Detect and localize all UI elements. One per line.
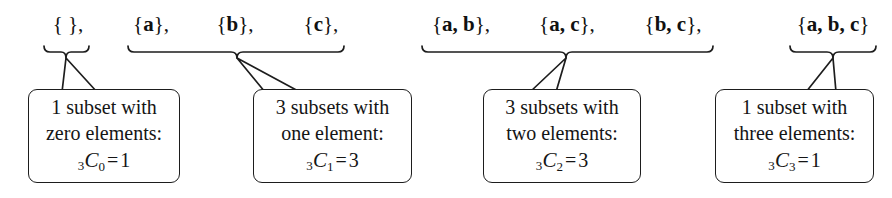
pointer-tail-one-element <box>237 58 300 92</box>
combination-formula: 3C2=3 <box>536 146 589 181</box>
formula-value: 1 <box>120 149 130 171</box>
formula-subscript: 3 <box>789 158 796 173</box>
callout-line-2: two elements: <box>506 120 618 146</box>
callout-one-element: 3 subsets with one element: 3C1=3 <box>253 89 412 183</box>
formula-presubscript: 3 <box>536 158 543 173</box>
callout-line-2: one element: <box>281 120 384 146</box>
callout-zero-elements: 1 subset with zero elements: 3C0=1 <box>28 89 180 183</box>
formula-subscript: 1 <box>327 158 334 173</box>
underbrace-two-elements <box>422 46 713 58</box>
callout-two-elements: 3 subsets with two elements: 3C2=3 <box>483 89 641 183</box>
formula-equals: = <box>105 149 120 171</box>
subsets-combinations-diagram: { }, {a}, {b}, {c}, {a, b}, {a, c}, {b, … <box>0 0 892 198</box>
formula-presubscript: 3 <box>768 158 775 173</box>
pointer-tail-zero-elements <box>62 58 97 92</box>
formula-symbol: C <box>543 148 557 172</box>
callout-line-1: 3 subsets with <box>505 94 618 120</box>
underbrace-three-elements <box>790 46 876 58</box>
combination-formula: 3C1=3 <box>306 146 359 181</box>
pointer-tail-two-elements <box>530 58 566 92</box>
underbrace-one-element <box>128 46 344 58</box>
formula-symbol: C <box>85 148 99 172</box>
formula-value: 3 <box>578 149 588 171</box>
formula-value: 3 <box>349 149 359 171</box>
callout-line-1: 3 subsets with <box>276 94 389 120</box>
underbrace-zero-elements <box>44 46 89 58</box>
callout-line-2: zero elements: <box>46 120 162 146</box>
combination-formula: 3C0=1 <box>78 146 131 181</box>
callout-three-elements: 1 subset with three elements: 3C3=1 <box>715 89 874 183</box>
callout-line-1: 1 subset with <box>742 94 848 120</box>
formula-presubscript: 3 <box>78 158 85 173</box>
callout-line-2: three elements: <box>734 120 856 146</box>
formula-equals: = <box>563 149 578 171</box>
formula-presubscript: 3 <box>306 158 313 173</box>
formula-symbol: C <box>775 148 789 172</box>
formula-value: 1 <box>811 149 821 171</box>
callout-line-1: 1 subset with <box>51 94 157 120</box>
combination-formula: 3C3=1 <box>768 146 821 181</box>
formula-equals: = <box>334 149 349 171</box>
formula-equals: = <box>796 149 811 171</box>
pointer-tail-three-elements <box>806 58 836 92</box>
formula-symbol: C <box>313 148 327 172</box>
